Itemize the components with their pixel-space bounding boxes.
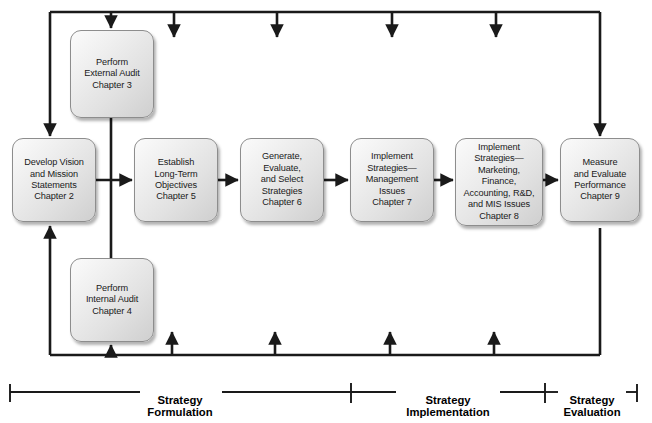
node-develop-vision-label: Develop Vision and Mission Statements Ch… [21, 155, 87, 205]
node-implement-functional-label: Implement Strategies— Marketing, Finance… [461, 140, 538, 224]
node-long-term-objectives[interactable]: Establish Long-Term Objectives Chapter 5 [134, 138, 218, 222]
node-generate-strategies[interactable]: Generate, Evaluate, and Select Strategie… [240, 138, 324, 222]
node-implement-management-label: Implement Strategies— Management Issues … [363, 149, 422, 210]
node-measure-evaluate[interactable]: Measure and Evaluate Performance Chapter… [560, 138, 640, 222]
node-generate-strategies-label: Generate, Evaluate, and Select Strategie… [258, 149, 306, 210]
node-external-audit[interactable]: Perform External Audit Chapter 3 [70, 30, 154, 118]
node-long-term-objectives-label: Establish Long-Term Objectives Chapter 5 [151, 155, 200, 205]
node-internal-audit-label: Perform Internal Audit Chapter 4 [83, 281, 141, 319]
phase-label-strategy-formulation-text: Strategy Formulation [147, 394, 212, 419]
node-implement-management[interactable]: Implement Strategies— Management Issues … [350, 138, 434, 222]
node-develop-vision[interactable]: Develop Vision and Mission Statements Ch… [12, 138, 96, 222]
phase-label-strategy-formulation: Strategy Formulation [120, 381, 240, 419]
node-external-audit-label: Perform External Audit Chapter 3 [81, 55, 142, 93]
node-internal-audit[interactable]: Perform Internal Audit Chapter 4 [70, 258, 154, 342]
phase-label-strategy-evaluation: Strategy Evaluation [552, 381, 632, 419]
node-implement-functional[interactable]: Implement Strategies— Marketing, Finance… [455, 138, 543, 226]
phase-label-strategy-evaluation-text: Strategy Evaluation [563, 394, 620, 419]
phase-label-strategy-implementation: Strategy Implementation [388, 381, 508, 419]
node-measure-evaluate-label: Measure and Evaluate Performance Chapter… [571, 155, 629, 205]
phase-label-strategy-implementation-text: Strategy Implementation [406, 394, 489, 419]
strategic-management-model-diagram: Perform External Audit Chapter 3 Develop… [0, 0, 652, 423]
